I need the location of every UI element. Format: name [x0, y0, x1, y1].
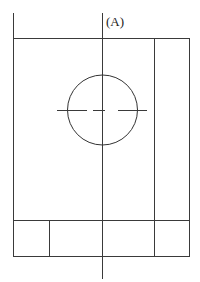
view-label: (A) — [106, 15, 124, 29]
drawing-sheet: (A) — [0, 0, 200, 282]
technical-drawing — [0, 0, 200, 282]
